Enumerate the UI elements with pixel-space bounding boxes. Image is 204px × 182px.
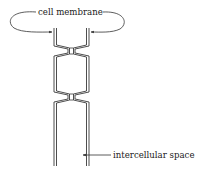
cell-junction-diagram: cell membrane intercellular space — [0, 0, 204, 182]
intercellular-space-label: intercellular space — [113, 150, 195, 160]
tight-junction-1 — [70, 48, 74, 54]
left-membrane — [54, 28, 70, 166]
right-membrane — [74, 28, 90, 166]
cell-membrane-label: cell membrane — [38, 7, 103, 17]
tight-junction-2 — [70, 94, 74, 100]
